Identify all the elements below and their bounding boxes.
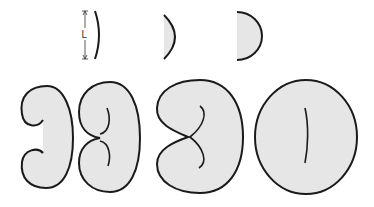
semicircle-figure bbox=[237, 12, 262, 60]
thin-arc bbox=[95, 11, 99, 59]
half-lens-figure bbox=[164, 15, 175, 59]
oval-shape bbox=[255, 80, 357, 194]
thin-arc-figure: L bbox=[82, 11, 100, 59]
notched-shape bbox=[157, 80, 243, 193]
hook-shape bbox=[22, 86, 73, 188]
pinched-shape bbox=[79, 82, 140, 192]
diagram-canvas: L bbox=[0, 0, 374, 207]
dimension-label: L bbox=[82, 29, 88, 40]
